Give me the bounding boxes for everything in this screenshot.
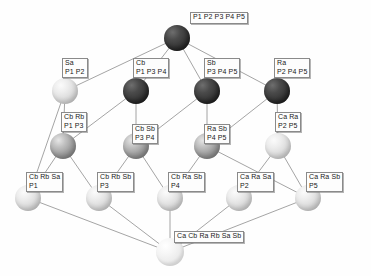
node-label-line: Ca Ra Sa (240, 173, 271, 182)
node-label-line: P3 P4 P5 (207, 68, 237, 77)
node-label-line: P2 P4 P5 (277, 68, 307, 77)
node-label-line: Cb Ra Sb (171, 173, 202, 182)
node-label-cbsb: Cb SbP3 P4 (132, 124, 158, 144)
node-label-line: Cb Rb Sb (100, 173, 131, 182)
node-label-line: Sa (65, 59, 85, 68)
node-label-line: P1 P3 P4 (136, 68, 166, 77)
node-label-line: P1 P2 P3 P4 P5 (193, 13, 245, 22)
node-label-rasb: Ra SbP4 P5 (204, 124, 230, 144)
lattice-node-top[interactable] (164, 25, 190, 51)
node-label-line: Ca Cb Ra Rb Sa Sb (177, 232, 241, 241)
node-label-bottom: Ca Cb Ra Rb Sa Sb (174, 231, 244, 243)
node-label-sb: SbP3 P4 P5 (204, 58, 240, 78)
node-label-line: Cb (136, 59, 166, 68)
node-label-line: Ra Sb (207, 125, 227, 134)
node-label-line: P2 (240, 182, 271, 191)
node-label-line: P5 (309, 182, 340, 191)
node-label-cbrbsb: Cb Rb SbP3 (97, 172, 134, 192)
node-label-line: Cb Rb Sa (29, 173, 60, 182)
node-label-line: P1 P3 (64, 122, 84, 131)
node-label-carasb: Ca Ra SbP5 (306, 172, 343, 192)
lattice-node-cara[interactable] (265, 133, 291, 159)
node-label-line: P4 (171, 182, 202, 191)
node-label-line: P3 P4 (135, 134, 155, 143)
node-label-line: P4 P5 (207, 134, 227, 143)
node-label-line: Cb Sb (135, 125, 155, 134)
node-label-cara: Ca RaP2 P5 (275, 112, 301, 132)
node-label-line: Ca Ra Sb (309, 173, 340, 182)
node-label-carasa: Ca Ra SaP2 (237, 172, 274, 192)
node-label-line: P3 (100, 182, 131, 191)
lattice-node-sa[interactable] (52, 78, 78, 104)
node-label-ra: RaP2 P4 P5 (274, 58, 310, 78)
lattice-node-sb[interactable] (194, 78, 220, 104)
node-label-cbrasb: Cb Ra SbP4 (168, 172, 205, 192)
node-label-line: P1 P2 (65, 68, 85, 77)
node-label-line: Sb (207, 59, 237, 68)
node-label-cb: CbP1 P3 P4 (133, 58, 169, 78)
lattice-node-cbrb[interactable] (50, 133, 76, 159)
node-label-line: P1 (29, 182, 60, 191)
lattice-node-ra[interactable] (264, 78, 290, 104)
node-label-line: Cb Rb (64, 113, 84, 122)
node-label-line: P2 P5 (278, 122, 298, 131)
lattice-node-cb[interactable] (123, 78, 149, 104)
node-label-cbrbsa: Cb Rb SaP1 (26, 172, 63, 192)
node-label-top: P1 P2 P3 P4 P5 (190, 12, 248, 24)
node-label-line: Ra (277, 59, 307, 68)
node-label-line: Ca Ra (278, 113, 298, 122)
lattice-diagram: P1 P2 P3 P4 P5SaP1 P2CbP1 P3 P4SbP3 P4 P… (0, 0, 371, 276)
node-label-cbrb: Cb RbP1 P3 (61, 112, 87, 132)
node-label-sa: SaP1 P2 (62, 58, 88, 78)
